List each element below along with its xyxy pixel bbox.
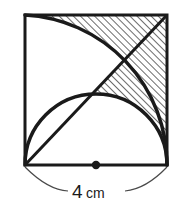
- dimension-value-label: 4: [72, 181, 83, 202]
- dimension-arc-right: [125, 167, 167, 191]
- dimension-unit-label: cm: [86, 185, 105, 201]
- geometry-diagram: 4 cm: [0, 0, 180, 203]
- dimension-arc-left: [25, 167, 68, 191]
- bottom-midpoint-dot: [92, 161, 100, 169]
- geometry-figure: 4 cm: [0, 0, 180, 203]
